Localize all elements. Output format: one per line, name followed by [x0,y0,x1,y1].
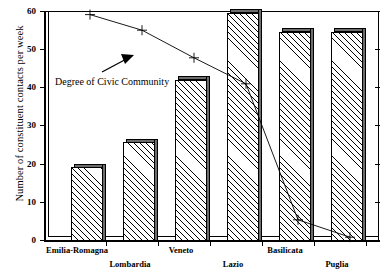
chart-figure: Number of constituent contacts per week … [0,0,387,276]
y-axis-title: Number of constituent contacts per week [14,9,25,219]
x-axis-label-lazio: Lazio [178,259,288,269]
x-axis-label-emilia-romagna: Emilia-Romagna [22,245,132,255]
civic-community-arrow-icon [102,54,134,72]
y-tick-label-0: 0 [20,235,36,245]
x-axis-label-basilicata: Basilicata [230,245,340,255]
x-axis-label-lombardia: Lombardia [75,259,185,269]
x-tick-6 [366,241,367,246]
civic-community-annotation-label: Degree of Civic Community [55,76,169,87]
y-tick-label-60: 60 [20,6,36,16]
x-axis-label-veneto: Veneto [126,245,236,255]
plot-area: 60 50 40 30 20 10 0 [44,11,380,241]
y-tick-label-50: 50 [20,44,36,54]
y-tick-label-10: 10 [20,197,36,207]
y-tick-label-30: 30 [20,120,36,130]
y-tick-label-20: 20 [20,159,36,169]
annotation-arrow-svg [44,11,380,246]
y-tick-label-40: 40 [20,82,36,92]
x-axis-label-puglia: Puglia [282,259,387,269]
